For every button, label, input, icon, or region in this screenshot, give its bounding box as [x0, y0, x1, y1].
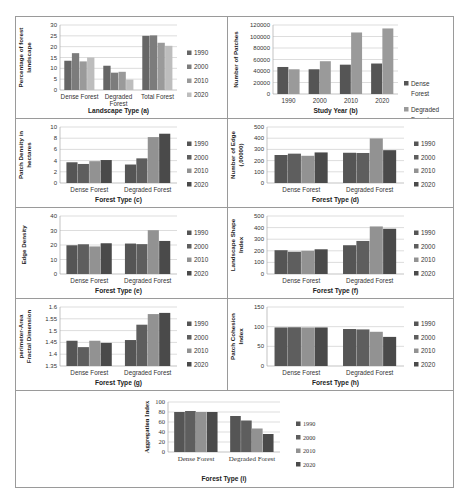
bar-2000	[72, 53, 79, 90]
bar-1990	[66, 162, 77, 183]
legend-label: Dense	[411, 80, 430, 87]
legend-label: 2000	[421, 334, 436, 341]
bar-2000	[78, 244, 89, 274]
legend-swatch	[414, 349, 419, 354]
chart-panel-f: 0100200300400500Dense ForestDegraded For…	[227, 207, 454, 298]
y-tick-label: 20	[159, 438, 166, 445]
bar-2000	[288, 327, 301, 366]
y-tick-label: 60000	[253, 57, 270, 63]
legend-label: 2000	[194, 154, 209, 161]
y-tick-label: 15	[50, 55, 57, 61]
bar-dense-forest	[277, 67, 288, 94]
bar-1990	[343, 329, 356, 366]
chart-panel-a: 051015202530Dense ForestDegradedForestTo…	[15, 16, 227, 118]
legend-swatch	[414, 271, 419, 276]
x-axis-title: Forest Type (e)	[95, 287, 142, 295]
y-tick-label: 0	[54, 271, 58, 277]
category-label: Degraded Forest	[346, 277, 394, 285]
bar-1990	[66, 341, 77, 366]
legend-label: 2000	[421, 154, 436, 161]
legend-swatch	[187, 142, 192, 147]
legend-swatch	[187, 322, 192, 327]
y-axis-title: Number of Patches	[232, 31, 239, 88]
legend-label: 1990	[303, 420, 315, 427]
legend-label: 1990	[194, 49, 209, 56]
legend-label: 2020	[303, 461, 315, 468]
y-tick-label: 6	[54, 146, 58, 152]
bar-2010	[301, 251, 314, 274]
bar-1990	[275, 250, 288, 274]
legend-swatch	[414, 231, 419, 236]
bar-2010	[148, 314, 159, 366]
bar-1990	[103, 66, 110, 90]
y-tick-label: 10	[50, 257, 57, 263]
bar-2010	[89, 161, 100, 183]
legend-swatch	[296, 462, 301, 467]
legend-label: 2010	[194, 347, 209, 354]
bar-degraded-forest	[320, 61, 331, 94]
y-tick-label: 80	[159, 408, 166, 415]
legend-label: 2010	[421, 167, 436, 174]
y-tick-label: 200	[254, 248, 265, 254]
chart-panel-c: 0246810Dense ForestDegraded ForestForest…	[15, 118, 227, 207]
y-tick-label: 400	[254, 225, 265, 231]
y-tick-label: 500	[254, 124, 265, 130]
bar-1990	[275, 327, 288, 366]
bar-1990	[230, 416, 241, 452]
legend-swatch	[187, 258, 192, 263]
bar-2000	[241, 421, 252, 453]
y-tick-label: 20	[50, 44, 57, 50]
legend-swatch	[187, 349, 192, 354]
chart-panel-b: 0200004000060000800001000001200001990200…	[227, 16, 454, 118]
y-tick-label: 10	[50, 65, 57, 71]
bar-2020	[207, 412, 218, 452]
bar-dense-forest	[371, 64, 382, 94]
y-tick-label: 4	[54, 158, 58, 164]
legend-label: 2020	[194, 181, 209, 188]
y-tick-label: 30	[50, 22, 57, 28]
x-axis-title: Study Year (b)	[313, 107, 357, 115]
y-tick-label: 0	[261, 363, 265, 369]
x-axis-title: Forest Type (f)	[313, 287, 358, 295]
y-tick-label: 200	[254, 158, 265, 164]
legend-swatch	[187, 182, 192, 187]
bar-2010	[196, 412, 207, 452]
bar-2020	[87, 58, 94, 91]
category-label: 2000	[313, 97, 328, 104]
y-tick-label: 100	[254, 169, 265, 175]
bar-2000	[356, 329, 369, 366]
y-tick-label: 20	[50, 242, 57, 248]
bar-2020	[159, 134, 170, 183]
bar-2020	[101, 160, 112, 183]
bar-2010	[301, 156, 314, 183]
bar-2020	[101, 243, 112, 274]
bar-degraded-forest	[382, 28, 393, 94]
legend-label: 1990	[421, 320, 436, 327]
y-tick-label: 8	[54, 135, 58, 141]
y-tick-label: 400	[254, 135, 265, 141]
category-label: Dense Forest	[282, 277, 320, 284]
legend-label: 2020	[194, 270, 209, 277]
y-tick-label: 60	[159, 418, 166, 425]
chart-panel-g: 1.351.41.451.51.551.6Dense ForestDegrade…	[15, 298, 227, 390]
y-tick-label: 150	[254, 304, 265, 310]
x-axis-title: Forest Type (g)	[95, 379, 142, 387]
y-axis-title: Landscape Shape	[229, 218, 236, 271]
legend-label: 2010	[303, 447, 315, 454]
category-label: Total Forest	[141, 93, 174, 100]
legend-swatch	[296, 422, 301, 427]
category-label: 2010	[344, 97, 359, 104]
x-axis-title: Forest Type (h)	[312, 379, 359, 387]
legend-label: 2010	[421, 256, 436, 263]
legend-swatch	[187, 79, 192, 84]
chart-panel-e: 010203040Dense ForestDegraded ForestFore…	[15, 207, 227, 298]
legend-label: 2020	[194, 91, 209, 98]
legend-swatch	[296, 449, 301, 454]
y-tick-label: 1.55	[45, 316, 57, 322]
y-tick-label: 1.45	[45, 339, 57, 345]
bar-2000	[356, 153, 369, 183]
y-tick-label: 2	[54, 169, 58, 175]
bar-2010	[119, 72, 126, 90]
bar-1990	[343, 153, 356, 183]
y-axis-title: Aggregation Index	[143, 400, 150, 453]
